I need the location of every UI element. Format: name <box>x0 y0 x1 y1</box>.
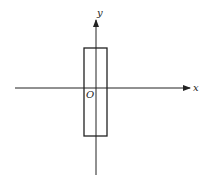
origin-label: O <box>86 89 94 100</box>
x-axis-label: x <box>193 82 199 93</box>
y-axis-label: y <box>96 7 103 18</box>
diagram-canvas: x y O <box>0 0 207 182</box>
